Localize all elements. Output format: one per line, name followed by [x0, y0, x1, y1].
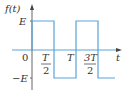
x-tick-half-t-den: 2	[43, 65, 49, 76]
x-tick-half-t-num: T	[42, 52, 50, 63]
square-wave-diagram: f(t) E −E 0 T 2 T 3T 2 t	[0, 0, 132, 94]
y-axis-label: f(t)	[4, 3, 21, 14]
y-tick-neg-e: −E	[12, 73, 28, 84]
x-tick-3half-t-num: 3T	[84, 52, 98, 63]
origin-label: 0	[22, 52, 28, 63]
y-tick-e: E	[18, 16, 27, 27]
y-axis-arrow-icon	[30, 4, 34, 10]
x-axis-label: t	[116, 52, 121, 63]
x-tick-3half-t-den: 2	[87, 65, 93, 76]
x-tick-t: T	[67, 52, 75, 63]
